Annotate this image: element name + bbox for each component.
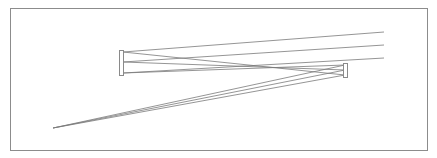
secondary-mirror	[344, 64, 348, 78]
primary-mirror	[120, 51, 124, 76]
rays-group	[53, 32, 384, 128]
ray-diagram	[0, 0, 437, 158]
ray-top	[53, 32, 384, 128]
diagram-frame	[11, 9, 428, 151]
ray-bottom	[53, 58, 384, 128]
ray-middle	[53, 45, 384, 128]
